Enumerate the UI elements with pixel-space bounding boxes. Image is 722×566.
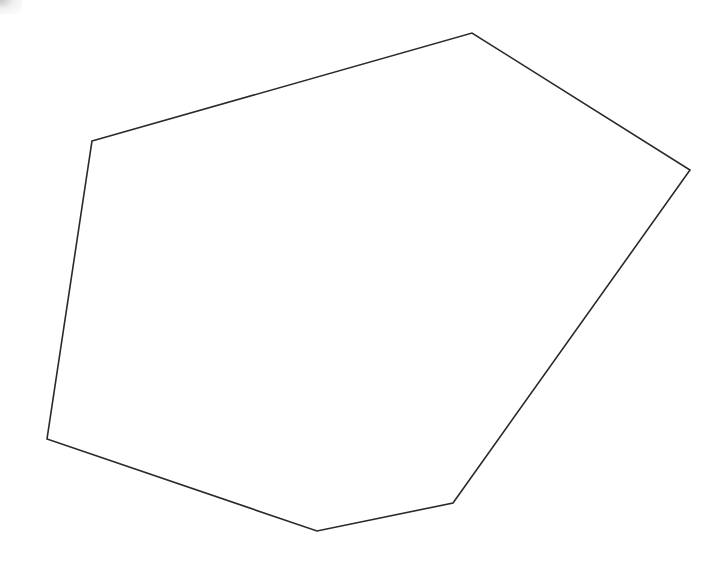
hexagon-outline [47,33,690,531]
polygon-diagram [0,0,722,566]
diagram-canvas [0,0,722,566]
